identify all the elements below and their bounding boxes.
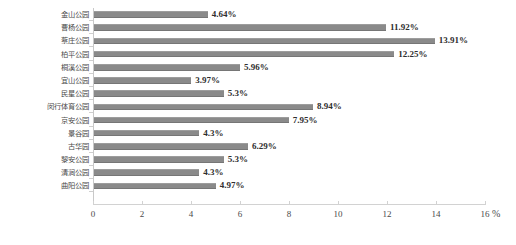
category-label: 宜山公园 [5, 74, 93, 87]
bar-value-label: 4.3% [199, 127, 223, 140]
bar[interactable] [94, 117, 289, 124]
bar-row[interactable]: 闵行体育公园8.94% [0, 100, 516, 113]
bar-value-label: 4.97% [216, 179, 245, 192]
x-tick-label: 12 [383, 205, 392, 223]
bar[interactable] [94, 169, 199, 176]
bar-value-label: 6.29% [248, 140, 277, 153]
bar-row[interactable]: 黎安公园5.3% [0, 153, 516, 166]
bar-value-label: 4.64% [208, 8, 237, 21]
bar-value-label: 4.3% [199, 166, 223, 179]
bar-value-label: 7.95% [289, 114, 318, 127]
category-label: 曲阳公园 [5, 179, 93, 192]
bar[interactable] [94, 38, 435, 45]
bar-row[interactable]: 曲阳公园4.97% [0, 179, 516, 192]
bar-row[interactable]: 蔡庄公园13.91% [0, 34, 516, 47]
category-label: 清涧公园 [5, 166, 93, 179]
bar-row[interactable]: 宜山公园3.97% [0, 74, 516, 87]
x-tick-label: 0 [91, 205, 96, 223]
bar[interactable] [94, 90, 224, 97]
category-label: 曹杨公园 [5, 21, 93, 34]
x-tick-label: 4 [189, 205, 194, 223]
category-label: 闵行体育公园 [5, 100, 93, 113]
bar-row[interactable]: 京安公园7.95% [0, 114, 516, 127]
x-tick-label: 16 [481, 205, 490, 223]
bar-value-label: 12.25% [394, 48, 427, 61]
bar-value-label: 3.97% [191, 74, 220, 87]
bar-row[interactable]: 柏平公园12.25% [0, 48, 516, 61]
category-label: 桐溪公园 [5, 61, 93, 74]
bar-row[interactable]: 古华园6.29% [0, 140, 516, 153]
bar[interactable] [94, 156, 224, 163]
x-tick-label: 2 [140, 205, 145, 223]
bar-row[interactable]: 景谷园4.3% [0, 127, 516, 140]
bar-rows-container: 金山公园4.64%曹杨公园11.92%蔡庄公园13.91%柏平公园12.25%桐… [0, 8, 516, 204]
bar-row[interactable]: 民星公园5.3% [0, 87, 516, 100]
bar-value-label: 11.92% [386, 21, 419, 34]
category-label: 古华园 [5, 140, 93, 153]
category-label: 民星公园 [5, 87, 93, 100]
bar-row[interactable]: 金山公园4.64% [0, 8, 516, 21]
bar-value-label: 5.3% [224, 153, 248, 166]
category-label: 京安公园 [5, 114, 93, 127]
bar[interactable] [94, 183, 216, 190]
bar[interactable] [94, 51, 394, 58]
category-label: 蔡庄公园 [5, 34, 93, 47]
x-tick-label: 6 [238, 205, 243, 223]
category-label: 柏平公园 [5, 48, 93, 61]
bar-value-label: 5.3% [224, 87, 248, 100]
bar-row[interactable]: 清涧公园4.3% [0, 166, 516, 179]
x-axis-ticks: 0246810121416 [0, 205, 516, 225]
category-label: 金山公园 [5, 8, 93, 21]
x-tick-label: 10 [334, 205, 343, 223]
bar[interactable] [94, 24, 386, 31]
bar[interactable] [94, 104, 313, 111]
category-label: 景谷园 [5, 127, 93, 140]
bar[interactable] [94, 64, 240, 71]
bar-value-label: 8.94% [313, 100, 342, 113]
bar-value-label: 13.91% [435, 34, 468, 47]
bar-value-label: 5.96% [240, 61, 269, 74]
bar[interactable] [94, 77, 191, 84]
bar-chart: 金山公园4.64%曹杨公园11.92%蔡庄公园13.91%柏平公园12.25%桐… [0, 0, 516, 245]
bar-row[interactable]: 曹杨公园11.92% [0, 21, 516, 34]
bar[interactable] [94, 11, 208, 18]
bar[interactable] [94, 130, 199, 137]
category-label: 黎安公园 [5, 153, 93, 166]
x-tick-label: 14 [432, 205, 441, 223]
bar-row[interactable]: 桐溪公园5.96% [0, 61, 516, 74]
x-tick-label: 8 [287, 205, 292, 223]
category-tick-mark [89, 191, 93, 192]
x-axis-unit-label: % [492, 207, 500, 221]
bar[interactable] [94, 143, 248, 150]
